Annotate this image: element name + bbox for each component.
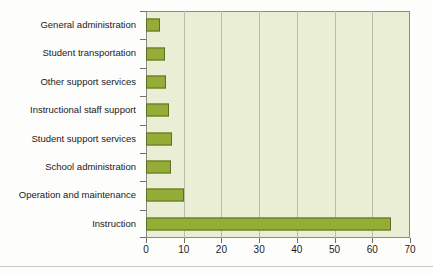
category-label: Student support services	[31, 125, 136, 153]
bar-row	[146, 11, 410, 39]
x-axis-tick	[297, 238, 298, 243]
page-divider-rule	[0, 266, 433, 267]
bar	[146, 19, 160, 32]
y-axis-tick	[140, 11, 146, 12]
category-label: Instruction	[92, 210, 136, 238]
category-label: Other support services	[40, 68, 136, 96]
category-label: Operation and maintenance	[19, 181, 136, 209]
x-axis-tick	[410, 238, 411, 243]
x-axis-tick	[335, 238, 336, 243]
bar	[146, 75, 166, 88]
bar-row	[146, 39, 410, 67]
category-label: Student transportation	[43, 39, 136, 67]
bar	[146, 47, 165, 60]
x-axis-tick	[221, 238, 222, 243]
bar-row	[146, 153, 410, 181]
x-axis-tick-label: 0	[143, 244, 149, 255]
x-axis-tick-label: 60	[367, 244, 378, 255]
bar	[146, 161, 171, 174]
bar	[146, 132, 172, 145]
x-axis-tick	[184, 238, 185, 243]
x-axis-tick-label: 40	[291, 244, 302, 255]
bar-row	[146, 68, 410, 96]
y-axis-tick	[140, 181, 146, 182]
bars-layer	[146, 11, 410, 238]
category-axis-labels: General administrationStudent transporta…	[0, 11, 142, 238]
x-axis-tick-label: 10	[178, 244, 189, 255]
category-label: Instructional staff support	[30, 96, 136, 124]
x-axis-tick-label: 20	[216, 244, 227, 255]
y-axis-tick	[140, 125, 146, 126]
category-label: General administration	[40, 11, 136, 39]
x-axis-tick-label: 50	[329, 244, 340, 255]
bar	[146, 217, 391, 230]
x-axis-tick	[146, 238, 147, 243]
bar-chart-figure: General administrationStudent transporta…	[0, 0, 433, 276]
x-axis-tick	[372, 238, 373, 243]
bar-row	[146, 125, 410, 153]
bar	[146, 104, 169, 117]
y-axis-tick	[140, 39, 146, 40]
bar	[146, 189, 184, 202]
bar-row	[146, 181, 410, 209]
category-label: School administration	[45, 153, 136, 181]
y-axis-tick	[140, 153, 146, 154]
y-axis-ticks	[140, 11, 147, 238]
x-axis-tick-label: 70	[404, 244, 415, 255]
y-axis-tick	[140, 210, 146, 211]
bar-row	[146, 96, 410, 124]
bar-row	[146, 210, 410, 238]
y-axis-tick	[140, 96, 146, 97]
x-axis-tick	[259, 238, 260, 243]
y-axis-tick	[140, 68, 146, 69]
x-axis-tick-labels: 010203040506070	[146, 244, 410, 258]
x-axis-tick-label: 30	[254, 244, 265, 255]
